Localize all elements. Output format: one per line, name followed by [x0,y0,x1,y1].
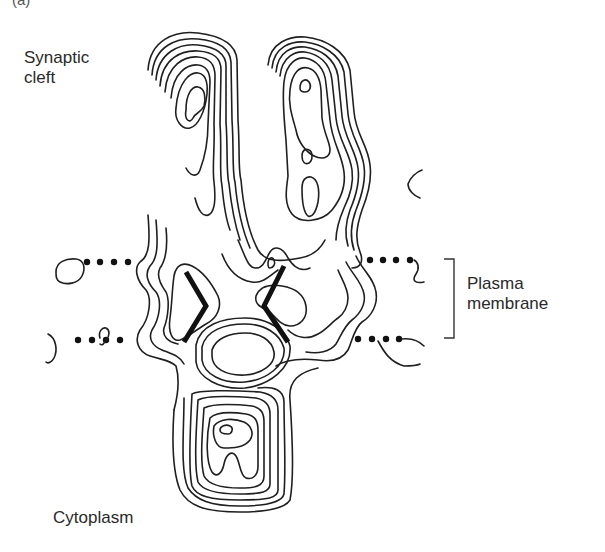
peripheral-contours [46,170,424,366]
plasma-membrane-bracket [444,259,454,338]
left-lobe-contours [148,32,325,260]
contour-map [0,0,605,552]
membrane-boundary-lower-left [75,337,123,343]
cytoplasmic-domain-contours [173,368,318,512]
membrane-boundary-upper-left [84,259,131,265]
transmembrane-helices [184,266,288,342]
membrane-region-contours [137,215,377,410]
right-lobe-contours [268,37,371,268]
membrane-boundary-upper-right [367,257,413,263]
